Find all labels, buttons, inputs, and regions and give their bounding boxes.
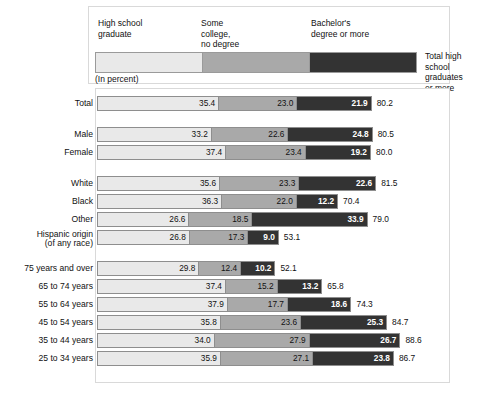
- row-total-value: 52.1: [280, 261, 296, 276]
- bar-segment-high-school-graduate: 35.4: [98, 97, 218, 110]
- bar-segment-some-college-no-degree: 23.3: [219, 177, 298, 190]
- stacked-bar: 37.423.419.2: [97, 145, 371, 160]
- bar-segment-bachelor-s-degree-or-more: 13.2: [277, 280, 322, 293]
- stacked-bar: 35.623.322.6: [97, 176, 376, 191]
- bar-segment-bachelor-s-degree-or-more: 24.8: [287, 128, 371, 141]
- legend-swatch-bachelors-degree-or-more: [309, 53, 416, 72]
- bar-segment-bachelor-s-degree-or-more: 23.8: [312, 352, 393, 365]
- bar-segment-bachelor-s-degree-or-more: 9.0: [247, 231, 277, 244]
- chart-row: Hispanic origin (of any race)26.817.39.0…: [0, 230, 478, 245]
- stacked-bar: 26.618.533.9: [97, 212, 368, 227]
- row-total-value: 88.6: [405, 333, 421, 348]
- bar-segment-some-college-no-degree: 15.2: [225, 280, 277, 293]
- chart-row: 75 years and over29.812.410.252.1: [0, 261, 478, 276]
- segment-value: 23.0: [277, 97, 293, 110]
- bar-segment-high-school-graduate: 33.2: [98, 128, 211, 141]
- segment-value: 17.7: [268, 298, 284, 311]
- row-total-value: 65.8: [327, 279, 343, 294]
- row-label: Male: [0, 127, 93, 142]
- segment-value: 25.3: [367, 316, 383, 329]
- row-label: 45 to 54 years: [0, 315, 93, 330]
- bar-segment-some-college-no-degree: 23.0: [218, 97, 296, 110]
- segment-value: 22.0: [277, 195, 293, 208]
- stacked-bar: 26.817.39.0: [97, 230, 279, 245]
- stacked-bar: 35.423.021.9: [97, 96, 372, 111]
- legend-panel: High school graduate Some college, no de…: [88, 6, 450, 84]
- segment-value: 35.8: [201, 316, 217, 329]
- stacked-bar: 37.917.718.6: [97, 297, 351, 312]
- segment-value: 26.6: [169, 213, 185, 226]
- bar-segment-bachelor-s-degree-or-more: 33.9: [251, 213, 366, 226]
- segment-value: 22.6: [268, 128, 284, 141]
- chart-row: 25 to 34 years35.927.123.886.7: [0, 351, 478, 366]
- segment-value: 18.5: [232, 213, 248, 226]
- bar-segment-bachelor-s-degree-or-more: 22.6: [298, 177, 375, 190]
- segment-value: 23.4: [286, 146, 302, 159]
- row-total-value: 79.0: [373, 212, 389, 227]
- bar-segment-some-college-no-degree: 23.6: [220, 316, 300, 329]
- bar-segment-high-school-graduate: 37.4: [98, 146, 225, 159]
- bar-segment-bachelor-s-degree-or-more: 26.7: [309, 334, 400, 347]
- stacked-bar: 37.415.213.2: [97, 279, 322, 294]
- segment-value: 35.4: [199, 97, 215, 110]
- bar-segment-some-college-no-degree: 12.4: [198, 262, 240, 275]
- segment-value: 27.1: [293, 352, 309, 365]
- stacked-bar: 34.027.926.7: [97, 333, 400, 348]
- segment-value: 26.7: [380, 334, 396, 347]
- segment-value: 22.6: [356, 177, 372, 190]
- row-total-value: 80.2: [377, 96, 393, 111]
- segment-value: 10.2: [255, 262, 271, 275]
- bar-segment-some-college-no-degree: 18.5: [188, 213, 251, 226]
- segment-value: 27.9: [289, 334, 305, 347]
- segment-value: 33.9: [347, 213, 363, 226]
- segment-value: 9.0: [263, 231, 275, 244]
- bar-segment-bachelor-s-degree-or-more: 12.2: [296, 195, 337, 208]
- chart-row: Male33.222.624.880.5: [0, 127, 478, 142]
- segment-value: 26.8: [170, 231, 186, 244]
- chart-row: Total35.423.021.980.2: [0, 96, 478, 111]
- chart-row: Black36.322.012.270.4: [0, 194, 478, 209]
- legend-swatch-some-college-no-degree: [202, 53, 309, 72]
- row-total-value: 81.5: [381, 176, 397, 191]
- segment-value: 29.8: [179, 262, 195, 275]
- segment-value: 12.4: [221, 262, 237, 275]
- bar-segment-bachelor-s-degree-or-more: 25.3: [300, 316, 386, 329]
- bar-segment-high-school-graduate: 36.3: [98, 195, 221, 208]
- row-label: 65 to 74 years: [0, 279, 93, 294]
- bar-segment-bachelor-s-degree-or-more: 21.9: [296, 97, 370, 110]
- chart-row: 35 to 44 years34.027.926.788.6: [0, 333, 478, 348]
- row-total-value: 74.3: [356, 297, 372, 312]
- bar-segment-high-school-graduate: 29.8: [98, 262, 198, 275]
- chart-row: 55 to 64 years37.917.718.674.3: [0, 297, 478, 312]
- bar-segment-high-school-graduate: 26.6: [98, 213, 188, 226]
- segment-value: 33.2: [192, 128, 208, 141]
- row-label: Total: [0, 96, 93, 111]
- chart-row: Other26.618.533.979.0: [0, 212, 478, 227]
- bar-segment-some-college-no-degree: 17.3: [189, 231, 248, 244]
- bar-segment-bachelor-s-degree-or-more: 10.2: [240, 262, 274, 275]
- chart-row: 65 to 74 years37.415.213.265.8: [0, 279, 478, 294]
- legend-label-bachelors-degree-or-more: Bachelor's degree or more: [311, 18, 369, 39]
- bar-segment-high-school-graduate: 35.8: [98, 316, 220, 329]
- segment-value: 37.9: [208, 298, 224, 311]
- segment-value: 21.9: [352, 97, 368, 110]
- row-label: 55 to 64 years: [0, 297, 93, 312]
- row-label: Female: [0, 145, 93, 160]
- bar-segment-high-school-graduate: 37.9: [98, 298, 227, 311]
- segment-value: 13.2: [302, 280, 318, 293]
- units-note: (In percent): [95, 74, 138, 84]
- chart-row: Female37.423.419.280.0: [0, 145, 478, 160]
- segment-value: 35.6: [200, 177, 216, 190]
- bar-segment-some-college-no-degree: 27.9: [214, 334, 309, 347]
- chart-row: White35.623.322.681.5: [0, 176, 478, 191]
- bar-segment-high-school-graduate: 34.0: [98, 334, 214, 347]
- row-label: 75 years and over: [0, 261, 93, 276]
- legend-label-some-college-no-degree: Some college, no degree: [201, 18, 239, 50]
- bar-segment-high-school-graduate: 35.9: [98, 352, 220, 365]
- segment-value: 35.9: [201, 352, 217, 365]
- chart-row: 45 to 54 years35.823.625.384.7: [0, 315, 478, 330]
- segment-value: 12.2: [318, 195, 334, 208]
- segment-value: 37.4: [206, 146, 222, 159]
- segment-value: 15.2: [257, 280, 273, 293]
- row-label: 35 to 44 years: [0, 333, 93, 348]
